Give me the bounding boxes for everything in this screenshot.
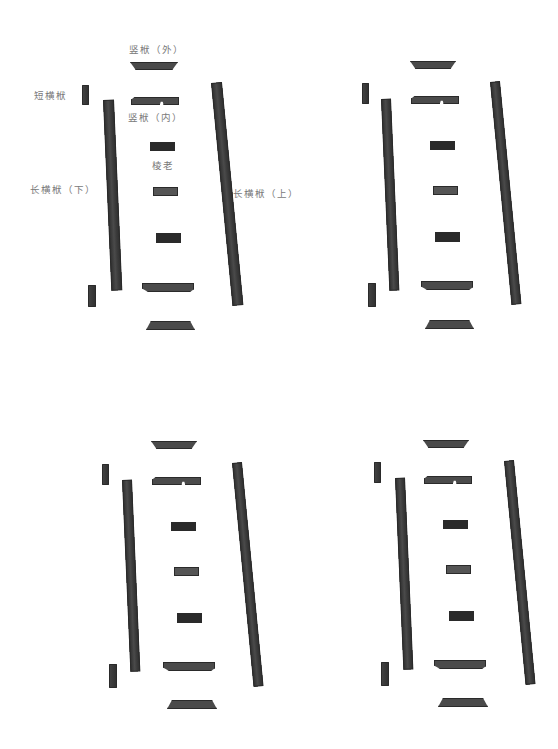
vertical-member-inner-bottom (434, 660, 486, 669)
short-horizontal-member-top (362, 83, 369, 104)
middle-block-3 (435, 232, 460, 242)
view-top-left: 竖栿（外） 短横栿 竖栿（内） 棱老 长横栿（下） 长横栿（上） (0, 0, 280, 340)
vertical-member-outer-top (423, 440, 469, 448)
vertical-member-outer-top (410, 61, 456, 69)
vertical-member-inner-top (424, 476, 472, 484)
label-vertical-inner: 竖栿（内） (128, 110, 183, 124)
middle-block-1 (430, 141, 455, 150)
middle-block-2 (433, 186, 458, 195)
label-short-horizontal: 短横栿 (34, 88, 67, 102)
long-horizontal-member-upper (504, 460, 536, 685)
middle-block-3 (449, 611, 474, 621)
short-horizontal-member-bottom (381, 662, 389, 686)
vertical-member-outer-top (130, 62, 178, 70)
long-horizontal-member-lower (395, 478, 413, 670)
short-horizontal-member-top (82, 85, 89, 105)
vertical-member-outer-bottom (438, 698, 488, 707)
view-top-right (280, 0, 558, 340)
middle-block-1 (150, 142, 175, 151)
vertical-member-inner-top (152, 477, 201, 485)
long-horizontal-member-upper (490, 81, 521, 305)
label-long-horizontal-lower: 长横栿（下） (30, 182, 96, 196)
vertical-member-inner-top (131, 97, 179, 105)
long-horizontal-member-lower (381, 99, 399, 291)
middle-block-2 (174, 567, 199, 576)
long-horizontal-member-lower (103, 100, 122, 291)
view-bottom-right (293, 380, 558, 720)
vertical-member-outer-bottom (425, 320, 474, 329)
middle-block-3 (156, 233, 181, 243)
middle-block-1 (443, 520, 468, 529)
view-bottom-left (20, 380, 290, 720)
vertical-member-outer-bottom (167, 700, 217, 709)
short-horizontal-member-bottom (368, 283, 376, 307)
vertical-member-outer-top (151, 441, 197, 449)
vertical-member-outer-bottom (146, 321, 195, 330)
label-middle-piece: 棱老 (152, 158, 174, 172)
long-horizontal-member-upper (232, 462, 264, 687)
middle-block-1 (171, 522, 196, 531)
short-horizontal-member-top (374, 462, 381, 483)
middle-block-2 (153, 187, 178, 196)
short-horizontal-member-bottom (109, 664, 117, 688)
short-horizontal-member-top (102, 464, 109, 485)
label-vertical-outer: 竖栿（外） (129, 42, 184, 56)
vertical-member-inner-bottom (163, 662, 215, 671)
vertical-member-inner-bottom (421, 281, 473, 290)
vertical-member-inner-top (411, 96, 459, 104)
middle-block-3 (177, 613, 202, 623)
long-horizontal-member-lower (122, 480, 140, 672)
vertical-member-inner-bottom (142, 283, 194, 292)
middle-block-2 (446, 565, 471, 574)
short-horizontal-member-bottom (88, 285, 96, 307)
